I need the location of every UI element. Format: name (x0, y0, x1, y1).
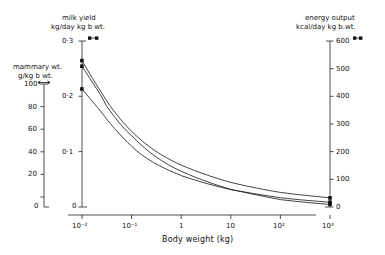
tick-mammary-80: 80 (28, 103, 37, 111)
figure-canvas (0, 0, 385, 255)
tick-x-1e-1: 10⁻¹ (122, 222, 137, 230)
data-marker (80, 87, 84, 91)
tick-mammary-40: 40 (28, 148, 37, 156)
tick-milk-0: 0 (72, 202, 76, 210)
data-marker (80, 59, 84, 63)
tick-mammary-60: 60 (28, 125, 37, 133)
square-marker-pair-icon-right (353, 36, 362, 39)
tick-milk-03: 0·3 (62, 37, 73, 45)
tick-x-10: 10 (226, 222, 235, 230)
tick-energy-300: 300 (336, 120, 349, 128)
square-marker-pair-icon-mid (88, 36, 98, 39)
tick-x-1e-2: 10⁻² (72, 222, 87, 230)
tick-energy-100: 100 (336, 175, 349, 183)
data-marker (328, 196, 332, 200)
data-marker (80, 64, 84, 68)
tick-energy-200: 200 (336, 148, 349, 156)
tick-energy-400: 400 (336, 92, 349, 100)
x-axis (68, 215, 330, 219)
tick-x-1e3: 10³ (322, 222, 334, 230)
series-energy-output (80, 64, 332, 206)
tick-x-1: 1 (179, 222, 183, 230)
data-marker (328, 203, 332, 207)
milk-yield-axis-title-line1: milk yield (62, 14, 96, 23)
tick-x-1e2: 10² (273, 222, 285, 230)
tick-mammary-0: 0 (34, 202, 38, 210)
energy-output-axis (325, 41, 334, 207)
tick-energy-500: 500 (336, 65, 349, 73)
energy-output-axis-title-line2: kcal/day kg b.wt. (296, 23, 356, 32)
series-mammary-weight (80, 87, 332, 204)
tick-mammary-100: 100 (24, 80, 37, 88)
milk-yield-axis-title-line2: kg/day kg b wt. (51, 23, 105, 32)
tick-energy-600: 600 (336, 37, 349, 45)
tick-mammary-20: 20 (28, 170, 37, 178)
tick-milk-02: 0·2 (62, 92, 73, 100)
tick-milk-01: 0·1 (62, 148, 73, 156)
x-axis-title: Body weight (kg) (162, 235, 233, 244)
mammary-weight-axis (41, 84, 50, 207)
mammary-weight-axis-title-line1: mammary wt. (13, 63, 62, 72)
tick-energy-0: 0 (336, 203, 340, 211)
energy-output-axis-title-line1: energy output (305, 14, 355, 23)
series-milk-yield (80, 59, 332, 200)
